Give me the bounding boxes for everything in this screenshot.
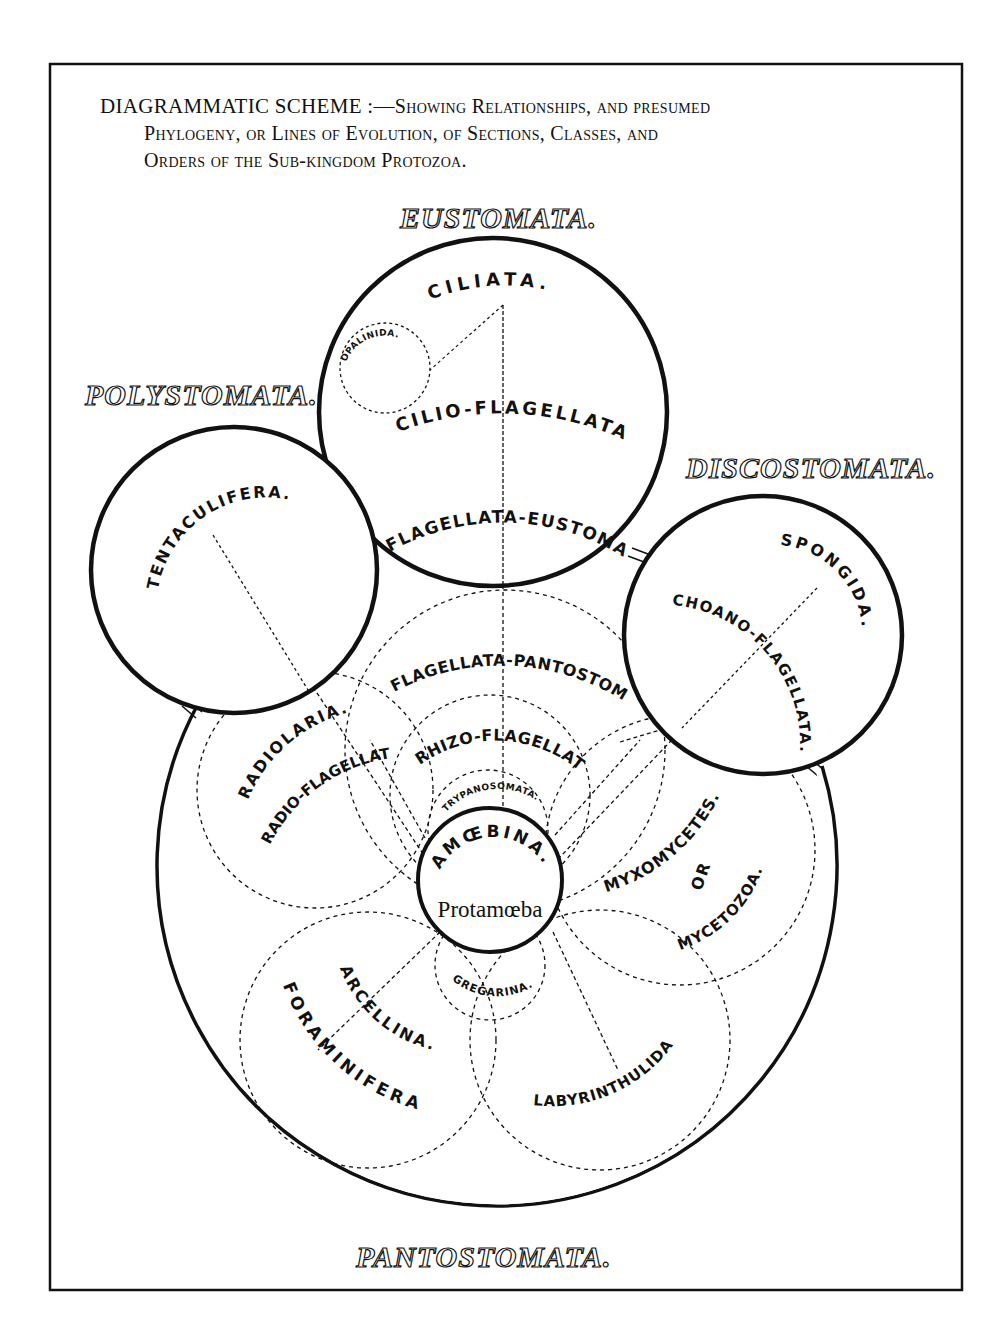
label-mycetozoa: MYCETOZOA. <box>675 864 767 954</box>
label-or: OR <box>687 858 715 893</box>
label-arcellina: ARCELLINA. <box>336 962 438 1054</box>
label-gregarina: GREGARINA. <box>450 972 535 999</box>
label-protamoeba: Protamœba <box>438 897 543 922</box>
group-title-eustomata: EUSTOMATA. <box>399 201 597 234</box>
diagram-page: DIAGRAMMATIC SCHEME :—Showing Relationsh… <box>0 0 1005 1329</box>
polystomata-circle <box>91 427 377 713</box>
protozoa-phylogeny-diagram: EUSTOMATA. POLYSTOMATA. DISCOSTOMATA. PA… <box>0 0 1005 1329</box>
group-title-pantostomata: PANTOSTOMATA. <box>355 1240 612 1273</box>
group-title-polystomata: POLYSTOMATA. <box>84 378 318 411</box>
label-labyrinthulida: LABYRINTHULIDA <box>533 1036 677 1111</box>
group-title-discostomata: DISCOSTOMATA. <box>685 451 936 484</box>
foraminifera-region <box>240 912 496 1168</box>
